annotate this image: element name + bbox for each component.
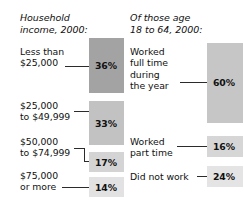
category-label-worked-part-time: Worked part time [130,136,173,159]
bar-value-50000-to-74999: 17% [95,157,117,168]
leader-line-25000-to-49999 [74,111,89,112]
category-label-less-than-25000: Less than $25,000 [20,46,64,69]
bar-value-25000-to-49999: 33% [95,118,117,129]
leader-line-worked-part-time [177,146,207,147]
category-label-50000-to-74999: $50,000 to $74,999 [20,136,70,159]
leader-line-75000-or-more [62,187,89,188]
category-label-75000-or-more: $75,000 or more [20,170,58,193]
panel-household-income: Household income, 2000: Less than $25,00… [0,0,122,208]
category-label-worked-full-time: Worked full time during the year [130,46,169,92]
leader-line-50000-to-74999-segment-1 [74,148,84,149]
bar-value-less-than-25000: 36% [95,60,117,71]
category-label-25000-to-49999: $25,000 to $49,999 [20,100,70,123]
leader-line-did-not-work [197,176,207,177]
bar-value-75000-or-more: 14% [95,182,117,193]
bar-value-worked-part-time: 16% [213,141,235,152]
category-label-did-not-work: Did not work [130,171,189,182]
leader-line-worked-full-time [180,82,207,83]
panel-title-age-18-to-64: Of those age 18 to 64, 2000: [130,12,202,35]
chart-root: Household income, 2000: Less than $25,00… [0,0,244,208]
bar-value-did-not-work: 24% [213,171,235,182]
leader-line-less-than-25000 [65,66,89,67]
panel-age-18-to-64: Of those age 18 to 64, 2000: Worked full… [122,0,244,208]
panel-title-household-income: Household income, 2000: [20,12,88,35]
bar-value-worked-full-time: 60% [213,77,235,88]
leader-line-50000-to-74999-elbow [84,148,85,162]
